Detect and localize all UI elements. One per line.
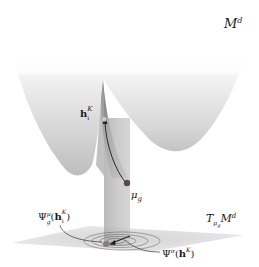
riemannian-manifold-diagram: Md hiK μg Ψμg(hiK) TμgMd Ψσ(hK) [0,0,259,267]
point-h-iK [101,116,106,121]
manifold-label: Md [223,16,242,31]
psi-mu-label: Ψμg(hiK) [38,208,70,226]
point-mu-g [124,180,130,186]
mu-g-label: μg [131,189,143,203]
psi-sigma-label: Ψσ(hK) [162,246,195,259]
point-projected [103,241,109,247]
tangent-space-label: TμgMd [206,212,237,229]
